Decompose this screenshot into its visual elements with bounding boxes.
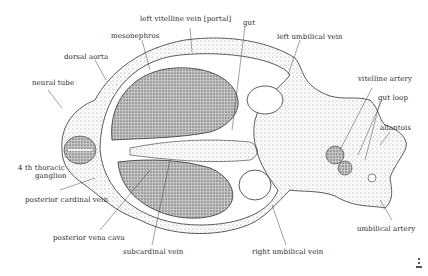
label-gut: gut bbox=[243, 19, 255, 27]
label-left-umbilical-vein: left umbilical vein bbox=[277, 33, 343, 41]
label-dorsal-aorta: dorsal aorta bbox=[64, 53, 108, 61]
label-posterior-vena-cava: posterior vena cava bbox=[53, 234, 125, 242]
label-gut-loop: gut loop bbox=[378, 94, 408, 102]
label-right-umbilical-vein: right umbilical vein bbox=[252, 248, 323, 256]
label-umbilical-artery: umbilical artery bbox=[357, 225, 415, 233]
scale-mark bbox=[416, 258, 422, 268]
label-posterior-cardinal-vein: posterior cardinal vein bbox=[25, 196, 108, 204]
label-thoracic-ganglion-line1: 4 th thoracic bbox=[18, 164, 65, 172]
label-vitelline-artery: vitelline artery bbox=[358, 75, 412, 83]
label-subcardinal-vein: subcardinal vein bbox=[123, 248, 183, 256]
label-thoracic-ganglion-line2: ganglion bbox=[35, 172, 67, 180]
label-neural-tube: neural tube bbox=[32, 79, 74, 87]
right-umbilical-vein-shape bbox=[239, 170, 271, 200]
embryo-section-figure: left vitelline vein [portal] gut mesonep… bbox=[0, 0, 428, 276]
label-allantois: allantois bbox=[380, 124, 411, 132]
label-mesonephros: mesonephros bbox=[111, 32, 159, 40]
label-left-vitelline-vein: left vitelline vein [portal] bbox=[140, 15, 231, 23]
left-umbilical-vein-shape bbox=[247, 86, 283, 114]
